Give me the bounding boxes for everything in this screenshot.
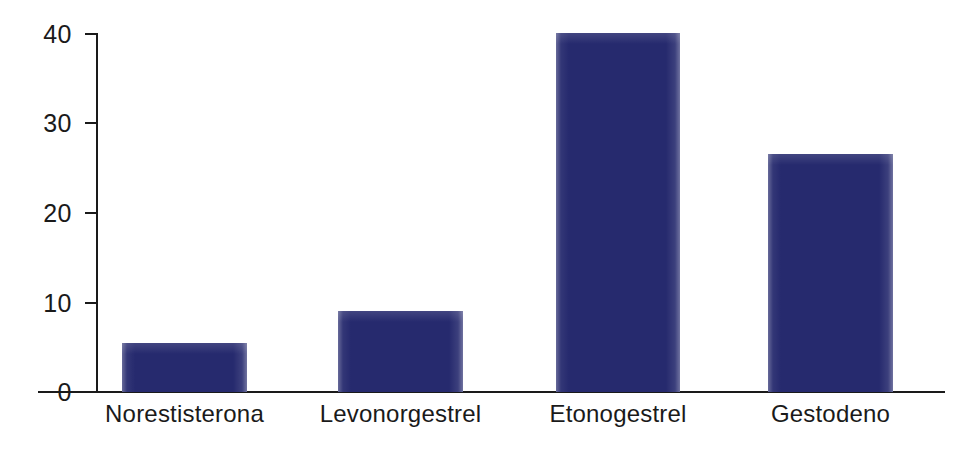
bar-norestisterona[interactable] <box>122 343 247 392</box>
bar-levonorgestrel[interactable] <box>338 311 463 392</box>
y-tick-label-10: 10 <box>12 289 72 318</box>
bar-etonogestrel[interactable] <box>556 33 680 392</box>
y-tick-mark-40 <box>85 33 97 35</box>
x-category-label-norestisterona: Norestisterona <box>94 400 275 428</box>
y-tick-mark-30 <box>85 122 97 124</box>
x-category-label-etonogestrel: Etonogestrel <box>532 400 704 428</box>
y-tick-mark-0 <box>85 391 97 393</box>
bar-chart: 40 30 20 10 0 Norestisterona Levonorgest… <box>0 0 956 459</box>
x-category-label-levonorgestrel: Levonorgestrel <box>312 400 489 428</box>
y-tick-label-20: 20 <box>12 199 72 228</box>
y-tick-mark-20 <box>85 212 97 214</box>
plot-area: 40 30 20 10 0 Norestisterona Levonorgest… <box>0 0 956 459</box>
y-tick-label-40: 40 <box>12 20 72 49</box>
y-tick-mark-10 <box>85 302 97 304</box>
x-category-label-gestodeno: Gestodeno <box>744 400 917 428</box>
y-tick-label-30: 30 <box>12 109 72 138</box>
bar-gestodeno[interactable] <box>768 154 893 392</box>
y-tick-label-0: 0 <box>12 378 72 407</box>
